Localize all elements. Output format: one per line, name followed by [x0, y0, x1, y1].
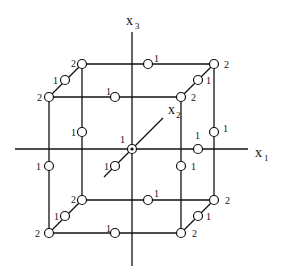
svg-text:1: 1: [206, 211, 211, 222]
svg-text:2: 2: [35, 228, 40, 239]
svg-text:1: 1: [154, 53, 159, 64]
center-label: 1: [120, 134, 125, 145]
x3-axis-label: x 3: [126, 13, 140, 31]
svg-text:1: 1: [195, 130, 200, 141]
svg-text:2: 2: [176, 110, 181, 120]
svg-text:1: 1: [104, 161, 109, 172]
svg-text:1: 1: [106, 223, 111, 234]
svg-text:1: 1: [206, 75, 211, 86]
svg-text:1: 1: [54, 211, 59, 222]
svg-text:1: 1: [106, 86, 111, 97]
svg-text:1: 1: [223, 123, 228, 134]
svg-text:x: x: [255, 145, 262, 160]
svg-text:2: 2: [192, 228, 197, 239]
central-composite-design-diagram: 2 2 2 2 2 2 2 2 1 1 1 1 1 1 1 1 1 1 1: [0, 0, 282, 280]
svg-text:1: 1: [264, 153, 269, 163]
svg-text:2: 2: [71, 194, 76, 205]
svg-text:1: 1: [53, 75, 58, 86]
svg-text:x: x: [168, 102, 175, 117]
svg-text:2: 2: [225, 195, 230, 206]
diagram-canvas: 2 2 2 2 2 2 2 2 1 1 1 1 1 1 1 1 1 1 1: [0, 0, 282, 280]
svg-text:1: 1: [154, 188, 159, 199]
svg-text:2: 2: [224, 59, 229, 70]
svg-text:2: 2: [71, 58, 76, 69]
svg-text:x: x: [126, 13, 133, 28]
svg-text:3: 3: [135, 21, 140, 31]
svg-text:1: 1: [71, 127, 76, 138]
center-dot: [130, 147, 133, 150]
svg-text:2: 2: [191, 92, 196, 103]
svg-text:1: 1: [36, 161, 41, 172]
x1-axis-label: x 1: [255, 145, 269, 163]
x2-axis-label: x 2: [168, 102, 181, 120]
svg-text:2: 2: [37, 92, 42, 103]
svg-text:1: 1: [191, 161, 196, 172]
